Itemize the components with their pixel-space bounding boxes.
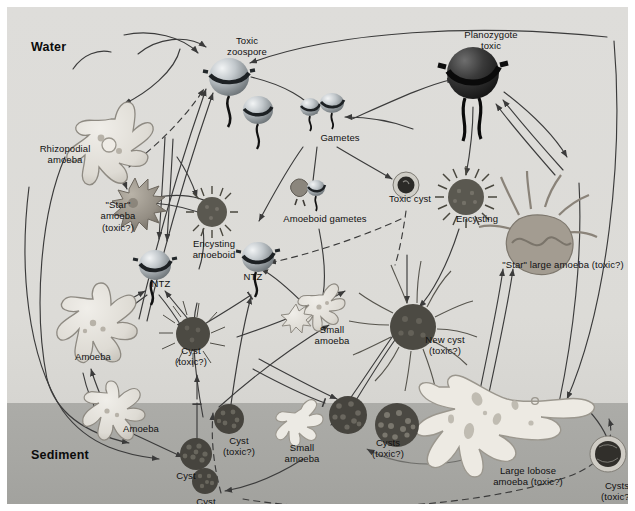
node-label-toxic-zoospore: Toxic zoospore — [216, 35, 278, 58]
node-label-cyst-toxic-sediment: Cyst (toxic?) — [216, 435, 262, 458]
node-label-small-amoeba-sediment: Small amoeba — [280, 442, 324, 465]
node-label-ntz-left: NTZ — [148, 278, 174, 289]
zone-label-sediment: Sediment — [31, 448, 89, 462]
node-label-ntz-right: NTZ — [240, 271, 266, 282]
organism-gametes — [300, 93, 344, 131]
organism-cysts-toxic-right — [590, 436, 626, 472]
node-label-cyst-bottom: Cyst — [190, 496, 222, 504]
node-label-star-amoeba: "Star" amoeba (toxic?) — [90, 199, 146, 233]
node-label-cyst-sediment: Cyst — [170, 470, 202, 481]
figure-canvas: Water Sediment Toxic zoospore Planozygot… — [0, 0, 635, 511]
node-label-large-lobose-amoeba: Large lobose amoeba (toxic?) — [486, 465, 570, 488]
node-label-planozygote: Planozygote toxic — [448, 29, 534, 52]
organism-cyst-toxic-sediment — [214, 404, 244, 434]
diagram-artwork — [7, 7, 628, 504]
node-label-toxic-cyst: Toxic cyst — [379, 193, 441, 204]
organism-large-lobose-amoeba — [416, 375, 595, 477]
node-label-amoeboid-gametes: Amoeboid gametes — [273, 213, 377, 224]
node-label-cysts-toxic-mid: Cysts (toxic?) — [365, 437, 411, 460]
organism-planozygote — [438, 47, 508, 141]
node-label-gametes: Gametes — [312, 132, 368, 143]
node-label-cyst-toxic-water: Cyst (toxic?) — [168, 345, 214, 368]
node-label-encysting-amoeboid: Encysting amoeboid — [183, 238, 245, 261]
node-label-amoeba-sediment: Amoeba — [118, 423, 164, 434]
node-label-cysts-toxic-right: Cysts (toxic?) — [594, 480, 628, 503]
node-label-new-cyst: New cyst (toxic?) — [415, 334, 475, 357]
zone-label-water: Water — [31, 40, 66, 54]
node-label-amoeba-water: Amoeba — [70, 351, 116, 362]
organism-cyst-sediment — [180, 438, 212, 470]
node-label-encysting: Encysting — [448, 213, 506, 224]
organism-small-amoeba-sediment — [276, 400, 323, 446]
organism-encysting-amoeboid — [186, 186, 238, 238]
organism-amoeboid-gametes — [291, 179, 325, 211]
diagram-area: Water Sediment Toxic zoospore Planozygot… — [7, 7, 628, 504]
node-label-rhizopodial-amoeba: Rhizopodial amoeba — [29, 143, 101, 166]
organism-zoospore-secondary — [243, 96, 273, 149]
node-label-star-large-amoeba: "Star" large amoeba (toxic?) — [488, 259, 628, 270]
node-label-small-amoeba-mid: Small amoeba — [310, 324, 354, 347]
